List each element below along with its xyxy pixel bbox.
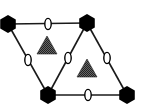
hexagon-node-icon xyxy=(40,86,56,104)
oval-marker-icon xyxy=(45,18,51,29)
hexagon-node-icon xyxy=(0,15,16,33)
hexagon-node-icon xyxy=(119,86,135,104)
edge-markers-layer xyxy=(25,18,110,100)
oval-marker-icon xyxy=(25,54,31,65)
oval-marker-icon xyxy=(85,89,91,100)
triangle-icon xyxy=(77,59,97,77)
oval-marker-icon xyxy=(104,52,110,63)
hexagon-node-icon xyxy=(79,14,95,32)
oval-marker-icon xyxy=(65,52,71,63)
triangle-icon xyxy=(37,36,57,54)
lattice-diagram xyxy=(0,0,162,110)
